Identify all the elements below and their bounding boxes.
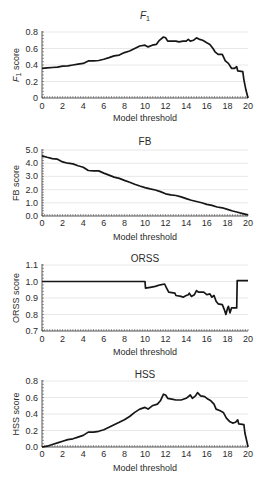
x-tick-label: 14 bbox=[181, 101, 191, 111]
x-tick-label: 8 bbox=[122, 218, 127, 228]
plot-area: 0246810121416182000.20.40.60.8 bbox=[25, 27, 253, 111]
plot-area: 024681012141618200.01.02.03.04.05.0 bbox=[25, 145, 253, 228]
x-tick-label: 18 bbox=[222, 101, 232, 111]
x-tick-label: 2 bbox=[60, 101, 65, 111]
x-tick-label: 10 bbox=[140, 334, 150, 344]
x-tick-label: 8 bbox=[122, 334, 127, 344]
x-tick-label: 12 bbox=[161, 218, 171, 228]
gridlines bbox=[42, 32, 248, 82]
x-tick-label: 14 bbox=[181, 449, 191, 459]
y-tick-label: 0.7 bbox=[25, 326, 38, 336]
plot-area: 024681012141618200.00.20.40.60.8 bbox=[25, 376, 253, 459]
y-tick-label: 5.0 bbox=[25, 145, 38, 155]
chart-title: HSS bbox=[135, 369, 156, 380]
chart-fb: FB FB score 024681012141618200.01.02.03.… bbox=[11, 136, 253, 242]
gridlines bbox=[42, 381, 248, 431]
x-tick-label: 12 bbox=[161, 334, 171, 344]
gridlines bbox=[42, 265, 248, 315]
x-tick-label: 8 bbox=[122, 101, 127, 111]
x-axis-label: Model threshold bbox=[113, 113, 177, 123]
y-tick-label: 0.4 bbox=[25, 60, 38, 70]
y-tick-label: 1.1 bbox=[25, 260, 38, 270]
y-tick-label: 0 bbox=[33, 93, 38, 103]
x-tick-label: 0 bbox=[39, 218, 44, 228]
y-tick-label: 0.8 bbox=[25, 310, 38, 320]
chart-title: ORSS bbox=[131, 253, 160, 264]
x-tick-label: 12 bbox=[161, 449, 171, 459]
series-line bbox=[42, 37, 248, 98]
x-axis-label: Model threshold bbox=[113, 347, 177, 357]
x-tick-label: 12 bbox=[161, 101, 171, 111]
x-tick-label: 10 bbox=[140, 449, 150, 459]
x-tick-label: 16 bbox=[202, 218, 212, 228]
plot-area: 024681012141618200.70.80.91.01.1 bbox=[25, 260, 253, 344]
y-tick-label: 0.0 bbox=[25, 211, 38, 221]
x-axis-label: Model threshold bbox=[113, 463, 177, 473]
x-tick-label: 6 bbox=[101, 218, 106, 228]
x-tick-label: 20 bbox=[243, 449, 253, 459]
y-tick-label: 0.6 bbox=[25, 44, 38, 54]
chart-hss: HSS HSS score 024681012141618200.00.20.4… bbox=[11, 369, 253, 473]
minor-ticks bbox=[42, 150, 248, 216]
y-tick-label: 0.0 bbox=[25, 442, 38, 452]
x-tick-label: 0 bbox=[39, 101, 44, 111]
y-tick-label: 0.2 bbox=[25, 426, 38, 436]
chart-title: F1 bbox=[140, 10, 150, 22]
y-tick-label: 0.9 bbox=[25, 293, 38, 303]
x-tick-label: 8 bbox=[122, 449, 127, 459]
x-tick-label: 2 bbox=[60, 449, 65, 459]
x-tick-label: 18 bbox=[222, 218, 232, 228]
y-tick-label: 1.0 bbox=[25, 277, 38, 287]
x-tick-label: 4 bbox=[81, 218, 86, 228]
x-tick-label: 6 bbox=[101, 449, 106, 459]
gridlines bbox=[42, 150, 248, 203]
series-line bbox=[42, 393, 248, 447]
y-tick-label: 0.6 bbox=[25, 393, 38, 403]
x-tick-label: 14 bbox=[181, 218, 191, 228]
y-tick-label: 0.4 bbox=[25, 409, 38, 419]
x-tick-label: 18 bbox=[222, 334, 232, 344]
y-tick-label: 0.8 bbox=[25, 27, 38, 37]
x-tick-label: 4 bbox=[81, 101, 86, 111]
x-tick-label: 18 bbox=[222, 449, 232, 459]
x-tick-label: 6 bbox=[101, 101, 106, 111]
x-tick-label: 2 bbox=[60, 218, 65, 228]
y-tick-label: 0.8 bbox=[25, 376, 38, 386]
x-tick-label: 0 bbox=[39, 449, 44, 459]
x-tick-label: 14 bbox=[181, 334, 191, 344]
x-tick-label: 10 bbox=[140, 218, 150, 228]
y-tick-label: 3.0 bbox=[25, 171, 38, 181]
series-line bbox=[42, 156, 248, 215]
y-axis-label: F1 score bbox=[11, 48, 22, 82]
chart-f1: F1 F1 score 0246810121416182000.20.40.60… bbox=[11, 10, 253, 123]
y-axis-label: HSS score bbox=[11, 392, 21, 435]
x-tick-label: 4 bbox=[81, 334, 86, 344]
x-tick-label: 0 bbox=[39, 334, 44, 344]
x-tick-label: 20 bbox=[243, 101, 253, 111]
x-tick-label: 16 bbox=[202, 449, 212, 459]
y-tick-label: 0.2 bbox=[25, 77, 38, 87]
x-tick-label: 10 bbox=[140, 101, 150, 111]
x-tick-label: 2 bbox=[60, 334, 65, 344]
y-tick-label: 1.0 bbox=[25, 198, 38, 208]
x-tick-label: 20 bbox=[243, 334, 253, 344]
x-tick-label: 16 bbox=[202, 334, 212, 344]
figure: F1 F1 score 0246810121416182000.20.40.60… bbox=[0, 0, 263, 483]
chart-title: FB bbox=[139, 136, 152, 147]
y-axis-label: ORSS score bbox=[11, 273, 21, 323]
y-axis-label: FB score bbox=[11, 165, 21, 201]
y-tick-label: 4.0 bbox=[25, 158, 38, 168]
x-tick-label: 4 bbox=[81, 449, 86, 459]
y-tick-label: 2.0 bbox=[25, 185, 38, 195]
chart-orss: ORSS ORSS score 024681012141618200.70.80… bbox=[11, 253, 253, 357]
x-tick-label: 20 bbox=[243, 218, 253, 228]
x-axis-label: Model threshold bbox=[113, 232, 177, 242]
x-tick-label: 6 bbox=[101, 334, 106, 344]
x-tick-label: 16 bbox=[202, 101, 212, 111]
